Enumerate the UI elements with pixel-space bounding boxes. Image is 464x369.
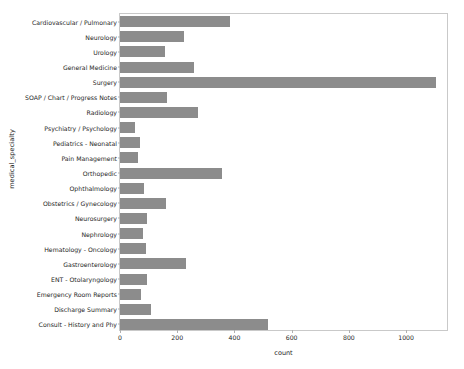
x-tick-mark (406, 330, 407, 333)
y-tick-label: Nephrology (81, 230, 117, 237)
x-tick-label: 1000 (398, 334, 414, 341)
bar (120, 258, 186, 269)
bar-row: Ophthalmology (120, 183, 449, 194)
x-tick-label: 600 (286, 334, 298, 341)
bar-row: Neurosurgery (120, 213, 449, 224)
plot-area: Cardiovascular / PulmonaryNeurologyUrolo… (119, 13, 448, 331)
y-tick-mark (118, 173, 121, 174)
y-tick-label: Obstetrics / Gynecology (43, 200, 117, 207)
bar (120, 137, 140, 148)
y-tick-label: Gastroenterology (63, 260, 117, 267)
bar-row: Radiology (120, 107, 449, 118)
bar-row: Urology (120, 46, 449, 57)
y-tick-mark (118, 309, 121, 310)
y-tick-mark (118, 233, 121, 234)
bar (120, 77, 436, 88)
y-tick-label: Discharge Summary (54, 306, 117, 313)
bar (120, 274, 147, 285)
bar (120, 198, 166, 209)
y-tick-mark (118, 218, 121, 219)
x-tick-label: 800 (343, 334, 355, 341)
y-tick-label: Cardiovascular / Pulmonary (32, 18, 117, 25)
y-tick-mark (118, 127, 121, 128)
bar-row: General Medicine (120, 62, 449, 73)
y-tick-mark (118, 248, 121, 249)
y-tick-label: Pediatrics - Neonatal (53, 139, 117, 146)
bar (120, 168, 222, 179)
bar (120, 319, 268, 330)
bar (120, 122, 135, 133)
y-tick-mark (118, 188, 121, 189)
y-tick-label: Consult - History and Phy (39, 321, 117, 328)
bar-row: Neurology (120, 31, 449, 42)
bar (120, 31, 184, 42)
bar (120, 213, 147, 224)
x-tick-label: 400 (229, 334, 241, 341)
y-tick-label: General Medicine (63, 64, 117, 71)
bar (120, 304, 151, 315)
y-tick-label: Psychiatry / Psychology (44, 124, 117, 131)
y-tick-label: Hematology - Oncology (44, 245, 117, 252)
bar-chart-figure: medical_specialty Cardiovascular / Pulmo… (0, 0, 464, 369)
y-tick-label: SOAP / Chart / Progress Notes (25, 94, 117, 101)
bars-container: Cardiovascular / PulmonaryNeurologyUrolo… (120, 14, 447, 330)
bar (120, 92, 167, 103)
bar-row: Obstetrics / Gynecology (120, 198, 449, 209)
y-tick-mark (118, 112, 121, 113)
x-tick-mark (292, 330, 293, 333)
y-tick-label: Surgery (93, 79, 117, 86)
bar-row: Orthopedic (120, 168, 449, 179)
x-tick-mark (234, 330, 235, 333)
y-tick-mark (118, 157, 121, 158)
y-tick-mark (118, 82, 121, 83)
bar (120, 62, 194, 73)
bar-row: ENT - Otolaryngology (120, 274, 449, 285)
bar-row: SOAP / Chart / Progress Notes (120, 92, 449, 103)
y-tick-mark (118, 294, 121, 295)
bar (120, 46, 165, 57)
bar (120, 289, 141, 300)
y-tick-mark (118, 142, 121, 143)
y-tick-mark (118, 324, 121, 325)
x-axis-label: count (119, 349, 448, 357)
bar (120, 243, 146, 254)
bar-row: Pediatrics - Neonatal (120, 137, 449, 148)
bar-row: Cardiovascular / Pulmonary (120, 16, 449, 27)
y-tick-mark (118, 279, 121, 280)
x-tick-mark (177, 330, 178, 333)
y-tick-label: Orthopedic (83, 170, 117, 177)
y-tick-mark (118, 36, 121, 37)
y-tick-label: Pain Management (61, 154, 117, 161)
y-tick-label: Neurosurgery (75, 215, 117, 222)
x-tick-mark (120, 330, 121, 333)
y-tick-label: ENT - Otolaryngology (51, 276, 117, 283)
y-tick-mark (118, 67, 121, 68)
x-tick-label: 0 (118, 334, 122, 341)
y-tick-label: Emergency Room Reports (37, 291, 117, 298)
x-tick-mark (349, 330, 350, 333)
bar (120, 183, 144, 194)
bar-row: Emergency Room Reports (120, 289, 449, 300)
bar (120, 16, 230, 27)
y-tick-label: Radiology (87, 109, 117, 116)
bar-row: Pain Management (120, 152, 449, 163)
x-tick-label: 200 (171, 334, 183, 341)
bar-row: Gastroenterology (120, 258, 449, 269)
bar-row: Nephrology (120, 228, 449, 239)
bar-row: Surgery (120, 77, 449, 88)
bar (120, 152, 138, 163)
y-tick-label: Urology (93, 48, 117, 55)
y-tick-mark (118, 21, 121, 22)
bar (120, 107, 198, 118)
y-tick-mark (118, 263, 121, 264)
bar-row: Consult - History and Phy (120, 319, 449, 330)
bar-row: Discharge Summary (120, 304, 449, 315)
y-tick-mark (118, 97, 121, 98)
bar (120, 228, 143, 239)
y-tick-mark (118, 51, 121, 52)
bar-row: Psychiatry / Psychology (120, 122, 449, 133)
y-axis-label: medical_specialty (8, 114, 16, 204)
y-tick-label: Neurology (85, 33, 117, 40)
y-tick-label: Ophthalmology (70, 185, 118, 192)
y-tick-mark (118, 203, 121, 204)
